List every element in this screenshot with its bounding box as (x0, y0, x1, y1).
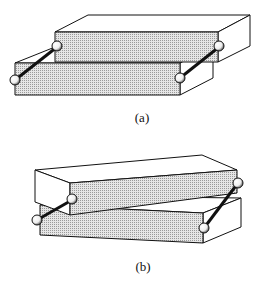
diagram-canvas (0, 0, 268, 283)
ball-joint-icon (10, 75, 20, 85)
caption-a: (a) (135, 110, 149, 126)
ball-joint-icon (32, 215, 42, 225)
ball-joint-icon (52, 41, 62, 51)
ball-joint-icon (214, 41, 224, 51)
top-block-a (55, 15, 250, 62)
top-block-top-face (55, 15, 250, 32)
figure-a (10, 15, 250, 95)
ball-joint-icon (199, 223, 209, 233)
ball-joint-icon (175, 73, 185, 83)
top-block-front-face (55, 32, 218, 62)
figure-b (32, 155, 243, 243)
ball-joint-icon (233, 178, 243, 188)
caption-b: (b) (135, 259, 150, 275)
ball-joint-icon (67, 194, 77, 204)
bottom-block-front-face (15, 63, 180, 95)
